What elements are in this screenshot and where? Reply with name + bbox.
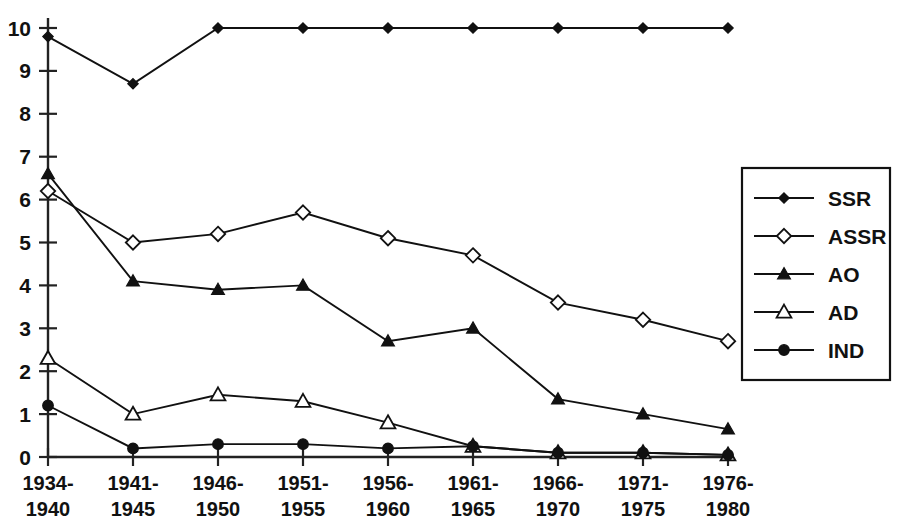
series-group <box>41 23 736 461</box>
x-tick-label-line: 1961- <box>447 472 498 494</box>
data-point-ssr-3 <box>298 23 308 33</box>
x-tick-label-line: 1960 <box>366 498 411 520</box>
data-point-ssr-1 <box>128 79 138 89</box>
x-tick-label-line: 1970 <box>536 498 581 520</box>
x-tick-label-line: 1965 <box>451 498 496 520</box>
series-assr <box>41 184 735 349</box>
x-tick-label: 1941-1945 <box>107 472 158 520</box>
series-line-assr <box>48 191 728 341</box>
data-point-ind-6 <box>553 447 564 458</box>
chart-canvas: 012345678910 1934-19401941-19451946-1950… <box>0 0 905 524</box>
legend-label: AO <box>828 263 860 286</box>
y-tick-label: 7 <box>19 145 31 168</box>
x-tick-label-line: 1976- <box>702 472 753 494</box>
data-point-ao-5 <box>467 322 480 333</box>
y-tick-label: 9 <box>19 59 31 82</box>
x-tick-label-line: 1934- <box>22 472 73 494</box>
data-point-assr-0 <box>41 184 55 198</box>
data-point-ad-2 <box>211 387 226 400</box>
series-line-ssr <box>48 28 728 84</box>
x-tick-label-line: 1956- <box>362 472 413 494</box>
data-point-ad-0 <box>41 351 56 364</box>
data-point-assr-6 <box>551 295 565 309</box>
x-tick-label-line: 1951- <box>277 472 328 494</box>
data-point-ind-2 <box>213 439 224 450</box>
data-point-ao-3 <box>297 279 310 290</box>
data-point-assr-7 <box>636 313 650 327</box>
x-tick-label-line: 1941- <box>107 472 158 494</box>
data-point-ssr-2 <box>213 23 223 33</box>
y-tick-label: 1 <box>19 403 31 426</box>
x-tick-label: 1951-1955 <box>277 472 328 520</box>
data-point-ind-1 <box>128 443 139 454</box>
data-point-ind-4 <box>383 443 394 454</box>
x-tick-label: 1946-1950 <box>192 472 243 520</box>
x-tick-label-line: 1966- <box>532 472 583 494</box>
x-tick-label: 1966-1970 <box>532 472 583 520</box>
series-line-ao <box>48 174 728 429</box>
x-tick-label-line: 1940 <box>26 498 71 520</box>
y-tick-label: 5 <box>19 231 31 254</box>
x-tick-label-line: 1945 <box>111 498 156 520</box>
data-point-ssr-7 <box>638 23 648 33</box>
x-tick-label-line: 1955 <box>281 498 326 520</box>
data-point-ssr-6 <box>553 23 563 33</box>
y-tick-label: 8 <box>19 102 31 125</box>
data-point-assr-4 <box>381 231 395 245</box>
x-tick-label-line: 1980 <box>706 498 751 520</box>
data-point-ssr-0 <box>43 31 53 41</box>
legend-label: IND <box>828 339 864 362</box>
series-ssr <box>43 23 733 89</box>
x-tick-label: 1956-1960 <box>362 472 413 520</box>
chart-legend: SSRASSRAOADIND <box>742 168 890 380</box>
data-point-assr-8 <box>721 334 735 348</box>
x-tick-label-line: 1971- <box>617 472 668 494</box>
series-line-ad <box>48 358 728 455</box>
legend-label: AD <box>828 301 858 324</box>
legend-marker-ind <box>779 345 790 356</box>
y-tick-label: 10 <box>8 17 31 40</box>
x-tick-label: 1976-1980 <box>702 472 753 520</box>
x-tick-label: 1934-1940 <box>22 472 73 520</box>
series-ao <box>42 167 735 433</box>
data-point-assr-3 <box>296 205 310 219</box>
legend-label: ASSR <box>828 225 886 248</box>
data-point-ind-5 <box>468 441 479 452</box>
line-chart: 012345678910 1934-19401941-19451946-1950… <box>0 0 905 524</box>
data-point-ind-7 <box>638 447 649 458</box>
data-point-ind-8 <box>723 450 734 461</box>
legend-label: SSR <box>828 187 871 210</box>
x-tick-label-line: 1946- <box>192 472 243 494</box>
x-tick-label: 1961-1965 <box>447 472 498 520</box>
data-point-ind-0 <box>43 400 54 411</box>
y-tick-label: 4 <box>19 274 31 297</box>
x-tick-label: 1971-1975 <box>617 472 668 520</box>
data-point-ssr-4 <box>383 23 393 33</box>
y-tick-label: 3 <box>19 317 31 340</box>
x-tick-label-line: 1950 <box>196 498 241 520</box>
data-point-assr-5 <box>466 248 480 262</box>
y-tick-label: 0 <box>19 446 31 469</box>
x-tick-label-line: 1975 <box>621 498 666 520</box>
y-tick-label: 6 <box>19 188 31 211</box>
data-point-ind-3 <box>298 439 309 450</box>
data-point-ssr-8 <box>723 23 733 33</box>
series-ind <box>43 400 734 460</box>
data-point-ssr-5 <box>468 23 478 33</box>
data-point-assr-1 <box>126 235 140 249</box>
data-point-assr-2 <box>211 227 225 241</box>
y-tick-label: 2 <box>19 360 31 383</box>
data-point-ao-0 <box>42 167 55 178</box>
